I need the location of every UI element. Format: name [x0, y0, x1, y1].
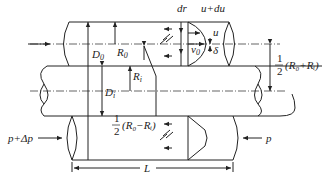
label-Ri: Ri — [132, 70, 142, 84]
label-half-sum-num: 1 — [277, 52, 283, 64]
label-half-sum-den: 2 — [277, 65, 283, 77]
velocity-profile-bottom — [188, 116, 207, 160]
label-dr: dr — [177, 2, 188, 14]
label-p: p — [265, 132, 272, 144]
label-half-diff-num: 1 — [114, 112, 120, 124]
annular-flow-diagram: dr u+du u v0 δ D0 R0 Ri Di 1 2 (R₀+Rᵢ) 1… — [0, 0, 322, 176]
label-half-sum-expr: (R₀+Rᵢ) — [285, 59, 319, 72]
label-D0: D0 — [91, 48, 104, 62]
label-u-du: u+du — [201, 2, 225, 14]
label-L: L — [143, 162, 150, 174]
label-u: u — [213, 26, 219, 38]
label-half-diff-expr: (R₀−Rᵢ) — [122, 119, 156, 132]
outer-pipe-bottom-left-lens — [67, 116, 77, 160]
label-R0: R0 — [116, 46, 128, 60]
label-Di: Di — [104, 86, 115, 100]
outer-pipe-right-end — [233, 116, 238, 160]
label-v0: v0 — [191, 43, 200, 57]
label-p-plus-dp: p+Δp — [7, 132, 33, 144]
label-delta: δ — [213, 44, 219, 56]
label-half-diff-den: 2 — [114, 125, 120, 137]
inner-pipe-bottom-wall — [47, 94, 295, 116]
